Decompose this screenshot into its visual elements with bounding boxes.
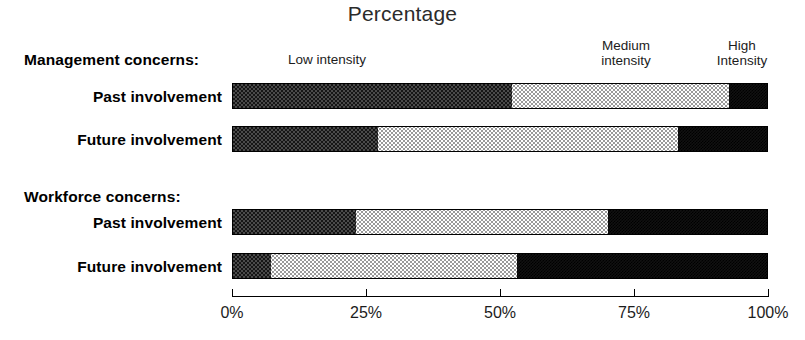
row-label-management-past: Past involvement [0,88,222,106]
x-axis-tick [366,289,367,297]
x-axis-tick-label: 25% [350,304,382,322]
bar-track-management-future [232,126,768,152]
x-axis-tick-label: 50% [484,304,516,322]
x-axis-tick [232,289,233,297]
bar-track-management-past [232,83,768,109]
row-label-workforce-past: Past involvement [0,214,222,232]
x-axis-tick-label: 100% [748,304,789,322]
bar-segment-high-intensity [729,84,768,108]
bar-segment-medium-intensity [271,254,518,278]
bar-track-workforce-past [232,209,768,235]
legend-label-medium-intensity: Medium intensity [580,38,672,68]
x-axis-tick [500,289,501,297]
x-axis-tick-label: 75% [618,304,650,322]
chart-title: Percentage [0,2,805,26]
row-label-workforce-future: Future involvement [0,258,222,276]
row-label-management-future: Future involvement [0,131,222,149]
percentage-stacked-bar-chart: Percentage Low intensity Medium intensit… [0,0,805,340]
bar-segment-low-intensity [233,127,378,151]
bar-segment-high-intensity [517,254,768,278]
bar-segment-low-intensity [233,254,271,278]
bar-segment-low-intensity [233,84,512,108]
x-axis-tick-label: 0% [220,304,243,322]
legend-label-high-intensity: High Intensity [700,38,784,68]
group-heading-workforce: Workforce concerns: [24,188,181,206]
bar-segment-medium-intensity [356,210,608,234]
bar-segment-high-intensity [678,127,768,151]
bar-segment-high-intensity [608,210,768,234]
legend-label-low-intensity: Low intensity [288,52,366,67]
bar-track-workforce-future [232,253,768,279]
bar-segment-medium-intensity [378,127,678,151]
x-axis-tick [768,289,769,297]
group-heading-management: Management concerns: [24,51,199,69]
bar-segment-low-intensity [233,210,356,234]
x-axis-tick [634,289,635,297]
bar-segment-medium-intensity [512,84,729,108]
